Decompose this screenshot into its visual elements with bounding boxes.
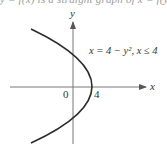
curve-equation-label: x = 4 − y², x ≤ 4 xyxy=(89,45,158,56)
origin-label: 0 xyxy=(63,89,69,100)
parabola-graph xyxy=(0,0,167,152)
x-tick-label-4: 4 xyxy=(94,89,100,100)
parabola-curve xyxy=(31,29,92,143)
y-axis-label: y xyxy=(70,8,75,19)
x-axis-label: x xyxy=(150,81,155,92)
